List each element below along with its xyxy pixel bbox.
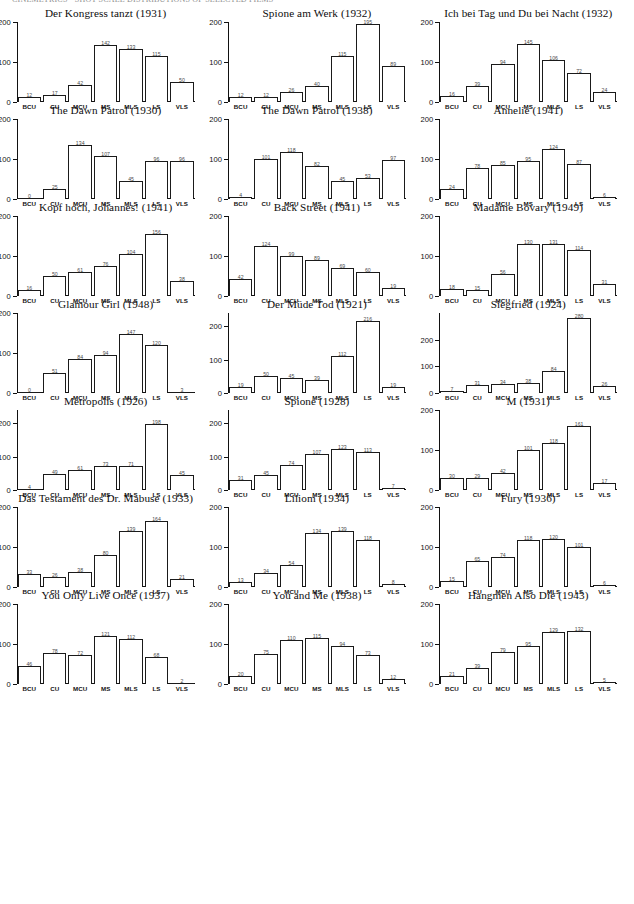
bar: 129MLS bbox=[542, 632, 565, 684]
bar: 101CU bbox=[254, 159, 277, 199]
bar-value-label: 61 bbox=[77, 464, 83, 470]
bar-value-label: 75 bbox=[263, 649, 269, 655]
bar: 26VLS bbox=[593, 386, 616, 393]
bar-value-label: 26 bbox=[289, 86, 295, 92]
y-axis-tick-label: 200 bbox=[0, 115, 11, 124]
chart-panel: Madame Bovary (1949)010020018BCU15CU56MC… bbox=[423, 199, 634, 296]
bar-value-label: 40 bbox=[314, 81, 320, 87]
y-axis-tick bbox=[224, 547, 228, 548]
y-axis-tick-label: 200 bbox=[209, 419, 222, 428]
bar: 112MLS bbox=[119, 639, 142, 684]
bar: 195LS bbox=[356, 24, 379, 102]
bar: 74MCU bbox=[280, 465, 303, 490]
plot-area: 010020012BCU17CU42MCU142MS133MLS115LS50V… bbox=[17, 22, 195, 102]
bar-value-label: 120 bbox=[152, 340, 161, 346]
bar-value-label: 76 bbox=[103, 260, 109, 266]
x-axis-category-label: BCU bbox=[234, 685, 248, 693]
bar-value-label: 51 bbox=[52, 367, 58, 373]
chart-title: Glamour Girl (1948) bbox=[0, 298, 211, 311]
bar-value-label: 133 bbox=[127, 43, 136, 49]
x-axis-category-label: VLS bbox=[387, 685, 399, 693]
bar: 139MLS bbox=[119, 531, 142, 587]
y-axis-tick-label: 200 bbox=[421, 18, 434, 27]
y-axis-tick-label: 200 bbox=[421, 115, 434, 124]
plot-area: 010020042BCU124CU99MCU89MS69MLS60LS19VLS bbox=[228, 216, 406, 296]
y-axis-tick bbox=[224, 256, 228, 257]
bar-value-label: 112 bbox=[338, 350, 346, 356]
bar-value-label: 99 bbox=[289, 251, 295, 257]
chart-panel: Der Kongress tanzt (1931)010020012BCU17C… bbox=[0, 5, 211, 102]
bar-value-label: 29 bbox=[474, 473, 480, 479]
y-axis-tick bbox=[435, 366, 439, 367]
bar-value-label: 95 bbox=[525, 156, 531, 162]
bar-value-label: 101 bbox=[524, 444, 533, 450]
bar: 71MLS bbox=[119, 466, 142, 490]
chart-panel: Spione (1928)010020031BCU45CU74MCU107MS1… bbox=[211, 393, 422, 490]
bar-value-label: 33 bbox=[26, 568, 32, 574]
y-axis-line bbox=[228, 22, 229, 102]
y-axis-tick bbox=[435, 410, 439, 411]
chart-panel: M (1931)010020030BCU29CU42MCU101MS118MLS… bbox=[423, 393, 634, 490]
x-axis-category-label: MCU bbox=[496, 685, 510, 693]
bar: 30BCU bbox=[440, 478, 463, 490]
chart-title: You Only Live Once (1937) bbox=[0, 589, 211, 602]
bar-value-label: 94 bbox=[339, 641, 345, 647]
bar-value-label: 42 bbox=[500, 468, 506, 474]
bar: 61MCU bbox=[68, 470, 91, 490]
bar-value-label: 120 bbox=[549, 534, 558, 540]
bar: 118MS bbox=[517, 540, 540, 587]
y-axis-tick-label: 100 bbox=[0, 452, 11, 461]
bar-value-label: 34 bbox=[263, 568, 269, 574]
bar-value-label: 12 bbox=[390, 674, 396, 680]
bar-value-label: 134 bbox=[76, 140, 85, 146]
bar-value-label: 121 bbox=[101, 630, 110, 636]
bar: 123MLS bbox=[331, 449, 354, 490]
bar-value-label: 115 bbox=[152, 51, 160, 57]
bar: 118MLS bbox=[542, 443, 565, 490]
bar-value-label: 101 bbox=[262, 153, 271, 159]
bar: 142MS bbox=[94, 45, 117, 102]
bar-value-label: 54 bbox=[289, 560, 295, 566]
bar: 45MLS bbox=[331, 181, 354, 199]
y-axis-tick bbox=[13, 644, 17, 645]
y-axis-tick bbox=[224, 684, 228, 685]
bar-value-label: 20 bbox=[238, 671, 244, 677]
bar: 161LS bbox=[567, 426, 590, 490]
chart-panel: Kopf hoch, Johannes! (1941)010020016BCU5… bbox=[0, 199, 211, 296]
bar: 50VLS bbox=[170, 82, 193, 102]
bar-value-label: 17 bbox=[602, 478, 608, 484]
bar-value-label: 13 bbox=[238, 576, 244, 582]
bar-value-label: 79 bbox=[500, 647, 506, 653]
plot-area: 010020046BCU78CU72MCU121MS112MLS68LS2VLS bbox=[17, 604, 195, 684]
chart-title: Der Müde Tod (1921) bbox=[211, 298, 422, 311]
y-axis-tick bbox=[13, 507, 17, 508]
bar: 21VLS bbox=[170, 579, 193, 587]
y-axis-line bbox=[228, 313, 229, 393]
chart-title: Hangmen Also Die (1943) bbox=[423, 589, 634, 602]
bar-value-label: 118 bbox=[364, 534, 372, 540]
bar-value-label: 124 bbox=[262, 241, 271, 247]
y-axis-tick bbox=[13, 256, 17, 257]
y-axis-tick bbox=[435, 256, 439, 257]
bar-value-label: 50 bbox=[263, 371, 269, 377]
bar: 120LS bbox=[145, 345, 168, 393]
bar: 94MS bbox=[94, 355, 117, 393]
bar-value-label: 89 bbox=[314, 255, 320, 261]
bar-value-label: 60 bbox=[365, 267, 371, 273]
y-axis-tick bbox=[13, 216, 17, 217]
y-axis-tick-label: 200 bbox=[209, 322, 222, 331]
bar: 216LS bbox=[356, 321, 379, 393]
x-axis-category-label: CU bbox=[473, 685, 482, 693]
bar: 45VLS bbox=[170, 475, 193, 490]
plot-area: 010020015BCU65CU74MCU118MS120MLS101LS6VL… bbox=[439, 507, 617, 587]
y-axis-tick bbox=[224, 604, 228, 605]
y-axis-tick bbox=[224, 62, 228, 63]
bar-value-label: 45 bbox=[289, 373, 295, 379]
chart-title: Spione (1928) bbox=[211, 395, 422, 408]
bar: 39CU bbox=[466, 86, 489, 102]
y-axis-tick bbox=[224, 507, 228, 508]
bar: 114LS bbox=[567, 250, 590, 296]
bar-value-label: 2 bbox=[180, 678, 183, 684]
bar: 115MLS bbox=[331, 56, 354, 102]
bar-value-label: 85 bbox=[500, 160, 506, 166]
